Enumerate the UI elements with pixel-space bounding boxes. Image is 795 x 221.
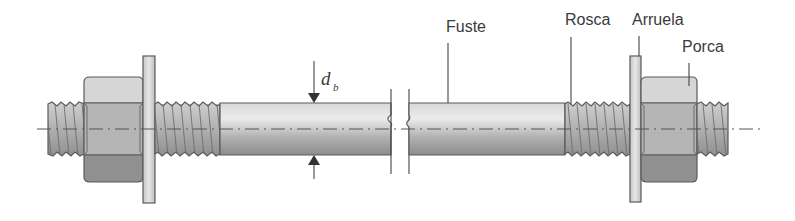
label-thread-text: Rosca [565, 11, 610, 28]
label-washer-text: Arruela [632, 11, 684, 28]
arrow-up-icon [308, 155, 320, 165]
label-nut-text: Porca [682, 38, 724, 55]
label-shaft-text: Fuste [446, 18, 486, 35]
label-thread: Rosca [565, 11, 610, 104]
label-shaft: Fuste [446, 18, 486, 103]
diameter-subscript: b [333, 81, 339, 93]
label-washer: Arruela [632, 11, 684, 56]
anchor-rod-diagram: d b Fuste Rosca Arruela Porca [0, 0, 795, 221]
arrow-down-icon [308, 93, 320, 103]
diameter-symbol: d [321, 68, 331, 89]
break-marks [391, 89, 409, 174]
